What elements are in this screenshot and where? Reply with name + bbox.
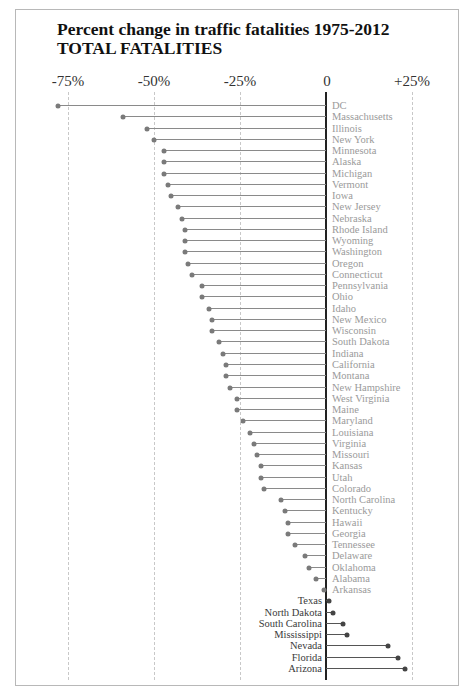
- lollipop-stem: [164, 173, 326, 174]
- lollipop-stem: [154, 139, 326, 140]
- lollipop-stem: [188, 263, 326, 264]
- data-point: [152, 137, 157, 142]
- data-point: [182, 238, 187, 243]
- state-label: Iowa: [332, 190, 353, 201]
- state-label: Florida: [292, 652, 322, 663]
- data-point: [210, 317, 215, 322]
- lollipop-stem: [185, 240, 326, 241]
- lollipop-stem: [326, 645, 388, 646]
- data-point: [162, 159, 167, 164]
- state-label: New Jersey: [332, 201, 381, 212]
- data-point: [248, 430, 253, 435]
- lollipop-stem: [147, 128, 326, 129]
- state-label: Wyoming: [332, 235, 373, 246]
- data-point: [282, 508, 287, 513]
- data-point: [293, 542, 298, 547]
- x-tick-label: -25%: [224, 73, 257, 90]
- data-point: [234, 407, 239, 412]
- state-label: North Dakota: [265, 607, 322, 618]
- data-point: [55, 103, 60, 108]
- data-point: [227, 385, 232, 390]
- lollipop-stem: [212, 330, 326, 331]
- data-point: [179, 216, 184, 221]
- data-point: [186, 261, 191, 266]
- state-label: New York: [332, 134, 375, 145]
- lollipop-stem: [182, 218, 326, 219]
- state-label: South Dakota: [332, 336, 389, 347]
- data-point: [341, 621, 346, 626]
- data-point: [176, 204, 181, 209]
- state-label: Maine: [332, 404, 359, 415]
- state-label: Illinois: [332, 123, 362, 134]
- lollipop-stem: [243, 420, 326, 421]
- data-point: [165, 182, 170, 187]
- lollipop-stem: [295, 544, 326, 545]
- lollipop-stem: [305, 555, 326, 556]
- data-point: [322, 587, 327, 592]
- lollipop-stem: [209, 308, 326, 309]
- x-tick-label: -50%: [138, 73, 171, 90]
- state-label: Washington: [332, 246, 382, 257]
- data-point: [262, 486, 267, 491]
- data-point: [255, 452, 260, 457]
- data-point: [258, 463, 263, 468]
- state-label: Missouri: [332, 449, 369, 460]
- state-label: Kentucky: [332, 505, 373, 516]
- data-point: [210, 328, 215, 333]
- state-label: South Carolina: [259, 618, 322, 629]
- x-tick-label: +25%: [394, 73, 430, 90]
- lollipop-stem: [281, 499, 326, 500]
- lollipop-stem: [168, 184, 326, 185]
- lollipop-stem: [226, 364, 326, 365]
- data-point: [145, 126, 150, 131]
- data-point: [286, 531, 291, 536]
- data-point: [220, 351, 225, 356]
- state-label: Idaho: [332, 303, 356, 314]
- data-point: [251, 441, 256, 446]
- state-label: Massachusetts: [332, 111, 393, 122]
- state-label: Minnesota: [332, 145, 376, 156]
- state-label: Vermont: [332, 179, 368, 190]
- data-point: [200, 283, 205, 288]
- data-point: [403, 666, 408, 671]
- data-point: [234, 396, 239, 401]
- lollipop-stem: [226, 375, 326, 376]
- data-point: [286, 520, 291, 525]
- lollipop-stem: [223, 353, 326, 354]
- state-label: Nebraska: [332, 213, 372, 224]
- gridline: [154, 92, 155, 680]
- data-point: [279, 497, 284, 502]
- state-label: Wisconsin: [332, 325, 376, 336]
- lollipop-stem: [237, 409, 326, 410]
- data-point: [224, 373, 229, 378]
- state-label: Hawaii: [332, 517, 362, 528]
- lollipop-stem: [123, 116, 326, 117]
- state-label: Alabama: [332, 573, 370, 584]
- lollipop-stem: [250, 432, 326, 433]
- state-label: West Virginia: [332, 393, 389, 404]
- state-label: Indiana: [332, 348, 364, 359]
- data-point: [182, 227, 187, 232]
- state-label: DC: [332, 100, 347, 111]
- state-label: Connecticut: [332, 269, 383, 280]
- data-point: [207, 306, 212, 311]
- lollipop-stem: [261, 477, 326, 478]
- state-label: Colorado: [332, 483, 371, 494]
- state-label: Oklahoma: [332, 562, 376, 573]
- lollipop-stem: [285, 510, 326, 511]
- data-point: [224, 362, 229, 367]
- data-point: [169, 193, 174, 198]
- data-point: [189, 272, 194, 277]
- lollipop-stem: [288, 533, 326, 534]
- data-point: [330, 610, 335, 615]
- lollipop-stem: [202, 285, 326, 286]
- data-point: [121, 114, 126, 119]
- state-label: New Mexico: [332, 314, 387, 325]
- data-point: [327, 598, 332, 603]
- state-label: Tennessee: [332, 539, 375, 550]
- chart-title-main: Percent change in traffic fatalities 197…: [57, 20, 390, 39]
- lollipop-stem: [178, 206, 326, 207]
- lollipop-stem: [326, 668, 405, 669]
- data-point: [258, 475, 263, 480]
- state-label: Arkansas: [332, 584, 371, 595]
